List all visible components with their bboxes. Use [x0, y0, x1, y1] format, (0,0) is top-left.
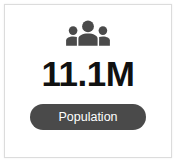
population-stat-card: 11.1M Population: [4, 4, 172, 158]
group-people-icon: [64, 19, 112, 47]
status-badge: Population: [30, 104, 146, 130]
stat-value: 11.1M: [42, 57, 135, 91]
